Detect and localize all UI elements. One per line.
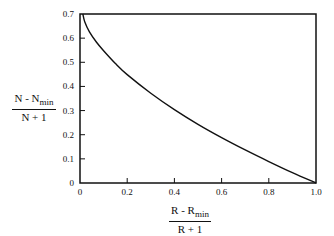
x-axis-ticks: 00.20.40.60.81.0: [78, 178, 322, 197]
plot-frame: [80, 14, 316, 183]
x-label-num-sub: min: [195, 209, 209, 219]
y-label-num-sub: min: [40, 97, 54, 107]
x-tick-label: 0: [78, 187, 83, 197]
y-tick-label: 0.2: [63, 130, 74, 140]
y-tick-label: 0.1: [63, 154, 74, 164]
x-axis-label-denominator: R + 1: [152, 222, 228, 235]
y-tick-label: 0: [70, 178, 75, 188]
x-tick-label: 0.8: [263, 187, 275, 197]
y-tick-label: 0.4: [63, 81, 75, 91]
y-axis-label: N - Nmin N + 1: [2, 92, 66, 123]
y-axis-ticks: 00.10.20.30.40.50.60.7: [63, 9, 85, 188]
y-axis-label-numerator: N - Nmin: [12, 92, 55, 110]
x-tick-label: 0.4: [169, 187, 181, 197]
y-tick-label: 0.6: [63, 33, 75, 43]
y-tick-label: 0.5: [63, 57, 75, 67]
y-axis-label-denominator: N + 1: [2, 110, 66, 123]
x-tick-label: 0.2: [122, 187, 133, 197]
x-axis-label-numerator: R - Rmin: [169, 204, 211, 222]
x-tick-label: 0.6: [216, 187, 228, 197]
y-tick-label: 0.7: [63, 9, 75, 19]
x-axis-label: R - Rmin R + 1: [152, 204, 228, 235]
y-label-num-text: N - N: [14, 92, 39, 104]
x-label-num-text: R - R: [171, 204, 195, 216]
data-curve: [83, 14, 316, 183]
x-tick-label: 1.0: [310, 187, 322, 197]
